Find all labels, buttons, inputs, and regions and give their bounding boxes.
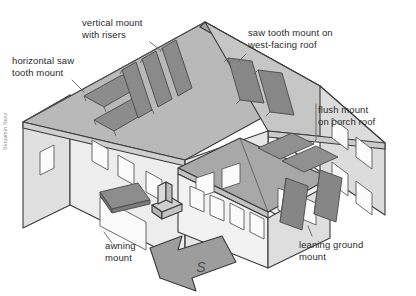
label-flush-mount-on-porch-roof: flush mount on porch roof xyxy=(318,104,375,127)
label-awning-mount: awning mount xyxy=(105,240,136,263)
label-leaning-ground-mount: leaning ground mount xyxy=(299,239,363,262)
label-horizontal-saw-tooth-mount: horizontal saw tooth mount xyxy=(12,55,74,78)
leader-vertical-risers xyxy=(150,42,160,50)
label-saw-tooth-mount-west-facing-roof: saw tooth mount on west-facing roof xyxy=(248,27,333,50)
label-vertical-mount-with-risers: vertical mount with risers xyxy=(82,17,143,40)
artist-credit: Benjamin Nusz xyxy=(2,112,8,150)
leader-horizontal-saw xyxy=(72,80,84,92)
chimney-or-vent xyxy=(158,182,172,204)
arrow-direction-letter: S xyxy=(196,259,206,275)
